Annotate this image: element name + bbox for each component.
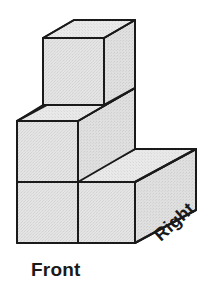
cube-stack-drawing (0, 0, 223, 293)
cube-face-front-bottom-front-right (78, 182, 135, 243)
isometric-figure: Front Right (0, 0, 223, 293)
front-orientation-label: Front (31, 259, 81, 281)
cube-face-front-top-left (43, 38, 104, 105)
cube-face-front-middle-left (17, 121, 78, 182)
cube-face-front-bottom-front-left (17, 182, 78, 243)
